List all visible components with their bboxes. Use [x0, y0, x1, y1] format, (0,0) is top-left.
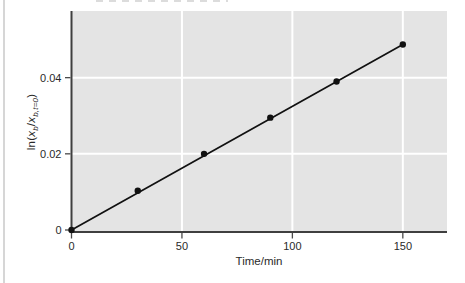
- y-tick-label-0.02: 0.02: [40, 148, 61, 160]
- x-tick-label-150: 150: [394, 240, 412, 252]
- kinetics-chart: 05010015000.020.04 ln(xb/xb,t=0) Time/mi…: [0, 0, 465, 283]
- data-point-150: [400, 41, 406, 47]
- data-point-60: [201, 151, 207, 157]
- x-axis-label: Time/min: [71, 255, 447, 267]
- y-tick-label-0.04: 0.04: [40, 72, 61, 84]
- y-axis-label-segment: /: [25, 123, 37, 126]
- y-axis-label-segment: b: [31, 126, 40, 131]
- y-axis-label-segment: ): [25, 94, 37, 98]
- data-point-120: [333, 78, 339, 84]
- data-point-90: [267, 114, 273, 120]
- x-tick-label-0: 0: [68, 240, 74, 252]
- y-axis-label-segment: b,t=0: [31, 98, 40, 117]
- x-tick-label-100: 100: [283, 240, 301, 252]
- data-point-0: [68, 227, 74, 233]
- y-tick-label-0: 0: [55, 224, 61, 236]
- y-axis-label: ln(xb/xb,t=0): [25, 94, 37, 150]
- page: 05010015000.020.04 ln(xb/xb,t=0) Time/mi…: [0, 0, 465, 283]
- y-axis-label-segment: ln(: [25, 137, 37, 150]
- y-axis-label-segment: x: [25, 131, 37, 137]
- x-tick-label-50: 50: [176, 240, 188, 252]
- data-point-30: [135, 188, 141, 194]
- chart-canvas: 05010015000.020.04: [0, 0, 465, 283]
- y-axis-label-segment: x: [25, 117, 37, 123]
